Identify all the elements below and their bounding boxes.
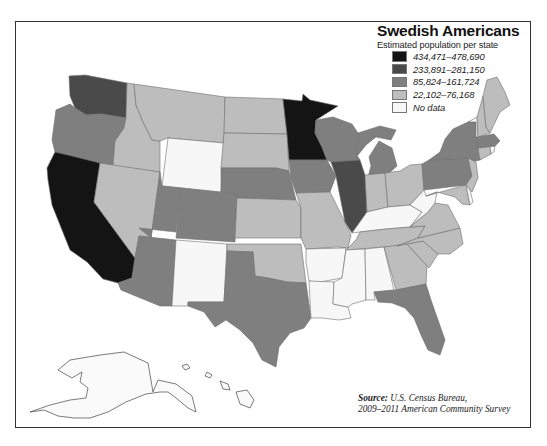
source-line-2: 2009–2011 American Community Survey	[358, 404, 510, 414]
legend-label: 85,824–161,724	[413, 76, 479, 87]
state-ri	[490, 146, 495, 154]
legend-label: 22,102–76,168	[413, 89, 474, 100]
state-ct	[478, 146, 491, 160]
legend-item: 85,824–161,724	[392, 76, 527, 89]
state-ia	[289, 160, 336, 193]
state-hi-island	[236, 390, 254, 408]
legend-swatch	[392, 51, 407, 62]
legend-swatch	[392, 77, 407, 88]
state-nm	[172, 240, 227, 306]
state-hi-island	[182, 364, 190, 370]
state-co	[176, 188, 237, 242]
legend-swatch	[392, 64, 407, 75]
legend-item: No data	[392, 101, 527, 114]
state-nd	[224, 97, 287, 134]
state-ks	[235, 198, 301, 238]
legend-label: 434,471–478,690	[413, 51, 485, 62]
map-title: Swedish Americans	[377, 22, 527, 39]
state-ak	[30, 352, 196, 418]
state-wy	[162, 138, 224, 192]
legend-item: 434,471–478,690	[392, 50, 527, 63]
source-line-1: U.S. Census Bureau,	[390, 393, 467, 403]
legend-swatch	[392, 90, 407, 101]
state-fl	[374, 284, 445, 355]
legend-item: 22,102–76,168	[392, 88, 527, 101]
state-hi-island	[205, 372, 212, 378]
source-note: Source: U.S. Census Bureau, 2009–2011 Am…	[358, 393, 510, 415]
legend-label: 233,891–281,150	[413, 64, 485, 75]
state-sd	[221, 133, 289, 171]
state-in	[365, 173, 388, 212]
legend-swatch	[392, 102, 407, 113]
legend: Swedish Americans Estimated population p…	[377, 22, 527, 114]
state-ar	[306, 248, 346, 282]
source-label: Source:	[358, 393, 388, 403]
state-mi	[368, 141, 397, 177]
legend-item: 233,891–281,150	[392, 63, 527, 76]
map-subtitle: Estimated population per state	[377, 40, 527, 50]
legend-label: No data	[413, 102, 445, 113]
state-ny	[429, 122, 480, 162]
state-hi-island	[220, 381, 230, 390]
